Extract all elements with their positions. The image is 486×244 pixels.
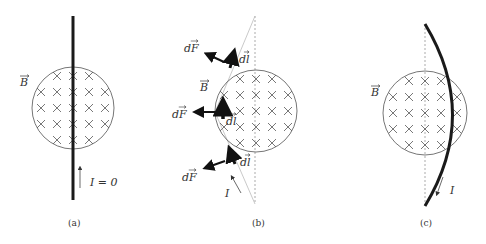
force-label: dF [172, 108, 187, 121]
element-label: dl [239, 53, 250, 66]
diagram: I = 0 B (a) dF dl dF dl dF dl I B (b) [0, 0, 486, 244]
element-label: dl [226, 115, 237, 128]
current-label: I = 0 [89, 176, 118, 189]
panel-a: I = 0 B (a) [19, 16, 118, 228]
wire-path [215, 16, 255, 204]
element-label: dl [240, 156, 251, 169]
field-label: B [19, 76, 28, 89]
force-arrow [208, 161, 225, 167]
current-arrow [232, 177, 241, 193]
dl-arrow [230, 56, 233, 68]
caption-a: (a) [68, 218, 80, 228]
current-label: I [449, 184, 455, 197]
force-label: dF [182, 171, 197, 184]
field-label: B [370, 86, 379, 99]
panel-c: I B (c) [370, 24, 467, 228]
current-label: I [224, 187, 230, 200]
dl-arrow [231, 153, 235, 164]
panel-b: dF dl dF dl dF dl I B (b) [172, 16, 297, 228]
caption-b: (b) [252, 218, 265, 228]
field-crosses [220, 75, 292, 147]
caption-c: (c) [420, 218, 432, 228]
force-label: dF [184, 42, 199, 55]
field-label: B [199, 81, 208, 94]
force-arrow [209, 55, 224, 62]
